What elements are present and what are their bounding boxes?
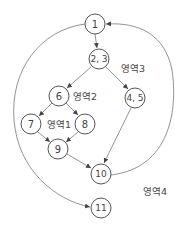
node-10: 10 xyxy=(91,164,111,184)
svg-text:8: 8 xyxy=(82,119,88,130)
edge-45-10 xyxy=(104,108,131,163)
node-9: 9 xyxy=(48,139,68,159)
node-11: 11 xyxy=(91,198,111,218)
svg-text:10: 10 xyxy=(95,169,107,179)
svg-text:4, 5: 4, 5 xyxy=(126,93,143,103)
node-1: 1 xyxy=(85,14,105,34)
edge-9-10 xyxy=(67,154,91,168)
node-2-3: 2, 3 xyxy=(89,49,109,69)
region-label-2: 영역2 xyxy=(73,91,97,102)
region-label-4: 영역4 xyxy=(143,186,167,197)
node-8: 8 xyxy=(75,114,95,134)
region-label-1: 영역1 xyxy=(47,119,71,130)
svg-text:2, 3: 2, 3 xyxy=(90,54,107,64)
region-label-3: 영역3 xyxy=(121,63,145,74)
svg-text:1: 1 xyxy=(92,19,98,30)
edge-23-6 xyxy=(67,67,91,88)
node-7: 7 xyxy=(21,114,41,134)
edge-7-9 xyxy=(38,132,50,142)
edge-8-9 xyxy=(66,132,78,142)
node-4-5: 4, 5 xyxy=(125,88,145,108)
svg-text:11: 11 xyxy=(95,203,106,213)
edge-6-7 xyxy=(39,103,52,116)
svg-text:6: 6 xyxy=(56,91,62,102)
control-flow-graph: 1 2, 3 6 4, 5 7 8 9 10 11 영역1 영역2 영역3 영역… xyxy=(0,0,180,229)
node-6: 6 xyxy=(49,86,69,106)
svg-text:7: 7 xyxy=(28,119,34,130)
svg-text:9: 9 xyxy=(55,144,61,155)
edge-1-23 xyxy=(95,34,97,48)
edge-6-8 xyxy=(66,103,78,115)
